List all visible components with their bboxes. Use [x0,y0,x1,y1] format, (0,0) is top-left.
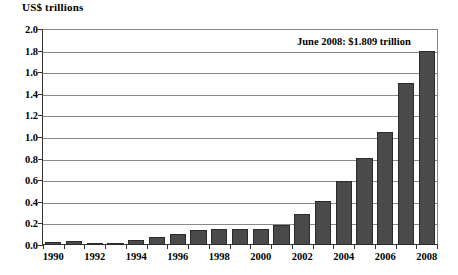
bar [315,201,331,245]
x-axis-tick-label: 1996 [167,251,188,262]
bar [356,158,372,245]
peak-value-annotation: June 2008: $1.809 trillion [297,36,411,47]
x-axis-tick-mark [105,245,106,249]
bar [149,237,165,245]
x-axis-tick-label: 1990 [43,251,64,262]
bar [211,229,227,245]
x-axis-tick-mark [230,245,231,249]
x-axis-tick-mark [43,245,44,249]
x-axis-tick-mark [84,245,85,249]
bar [419,51,435,245]
x-axis-tick-label: 1998 [209,251,230,262]
x-axis-tick-label: 1992 [84,251,105,262]
x-axis-tick-labels: 1990199219941996199820002002200420062008 [43,251,437,269]
x-axis-tick-mark [313,245,314,249]
x-axis-tick-label: 2002 [292,251,313,262]
bar [294,214,310,245]
y-axis-tick-marks [0,29,44,245]
bar [170,234,186,245]
x-axis-tick-mark [147,245,148,249]
x-axis-tick-label: 2008 [416,251,437,262]
bar [398,83,414,245]
x-axis-tick-mark [354,245,355,249]
x-axis-tick-mark [292,245,293,249]
bar [273,225,289,245]
bar [253,229,269,245]
x-axis-tick-mark [437,245,438,249]
x-axis-tick-mark [209,245,210,249]
x-axis-tick-mark [188,245,189,249]
x-axis-tick-mark [126,245,127,249]
x-axis-tick-label: 2006 [375,251,396,262]
x-axis-tick-mark [396,245,397,249]
bar [336,181,352,246]
x-axis-tick-mark [64,245,65,249]
x-axis-tick-mark [375,245,376,249]
bar [190,230,206,245]
y-axis-title: US$ trillions [22,1,84,13]
x-axis-tick-mark [271,245,272,249]
x-axis-tick-label: 2000 [250,251,271,262]
x-axis-tick-label: 1994 [126,251,147,262]
bar-series [43,30,437,245]
x-axis-tick-mark [250,245,251,249]
x-axis-tick-mark [416,245,417,249]
x-axis-tick-mark [333,245,334,249]
x-axis-tick-label: 2004 [333,251,354,262]
bar [377,132,393,245]
bar-chart: US$ trillions 2.01.81.61.41.21.00.80.60.… [0,0,458,275]
x-axis-tick-mark [167,245,168,249]
bar [232,229,248,245]
x-axis-tick-marks [43,245,437,250]
